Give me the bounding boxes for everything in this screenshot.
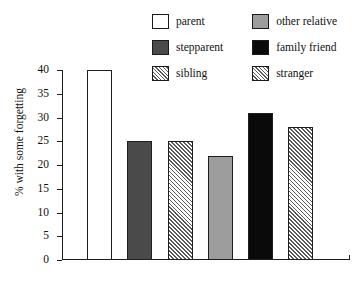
legend-swatch-family-friend-icon bbox=[252, 40, 269, 55]
plot-area: 0510152025303540 bbox=[62, 70, 350, 260]
bar-parent bbox=[87, 70, 112, 260]
bar-family-friend bbox=[248, 113, 273, 260]
legend-swatch-parent-icon bbox=[152, 14, 169, 29]
y-axis-tick-label-10: 10 bbox=[38, 207, 50, 219]
y-axis-tick-label-5: 5 bbox=[43, 231, 49, 243]
y-axis-tick-label-40: 40 bbox=[38, 64, 50, 76]
bar-stepparent bbox=[127, 141, 152, 260]
legend-item-other-relative: other relative bbox=[252, 13, 352, 30]
y-axis-tick-label-15: 15 bbox=[38, 183, 50, 195]
y-axis-tick-0: 0 bbox=[57, 260, 62, 261]
y-axis-tick-label-25: 25 bbox=[38, 136, 50, 148]
y-axis-tick-label-35: 35 bbox=[38, 88, 50, 100]
bar-series bbox=[62, 70, 350, 260]
legend-label-other-relative: other relative bbox=[276, 16, 337, 28]
legend-swatch-stepparent-icon bbox=[152, 40, 169, 55]
y-axis-tick-label-0: 0 bbox=[43, 254, 49, 266]
legend-label-family-friend: family friend bbox=[276, 42, 336, 54]
bar-stranger bbox=[288, 127, 313, 260]
bar-sibling bbox=[168, 141, 193, 260]
y-axis-tick-label-30: 30 bbox=[38, 112, 50, 124]
legend-swatch-other-relative-icon bbox=[252, 14, 269, 29]
legend-item-stepparent: stepparent bbox=[152, 39, 238, 56]
legend-item-parent: parent bbox=[152, 13, 238, 30]
bar-other-relative bbox=[208, 156, 233, 261]
y-axis-label: % with some forgetting bbox=[14, 88, 26, 196]
y-axis-tick-label-20: 20 bbox=[38, 159, 50, 171]
legend-label-stepparent: stepparent bbox=[176, 42, 223, 54]
legend-label-parent: parent bbox=[176, 16, 205, 28]
bar-chart-figure: parent other relative stepparent family … bbox=[0, 0, 362, 286]
legend-item-family-friend: family friend bbox=[252, 39, 352, 56]
